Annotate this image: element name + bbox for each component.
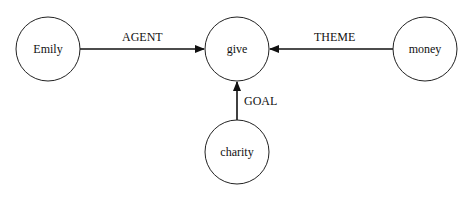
edge-label-agent: AGENT [122, 30, 163, 44]
node-emily: Emily [16, 17, 80, 81]
node-give: give [205, 17, 269, 81]
edge-theme: THEME [270, 30, 393, 49]
node-label-emily: Emily [33, 42, 62, 56]
node-money: money [393, 17, 457, 81]
edge-agent: AGENT [80, 30, 204, 49]
node-charity: charity [205, 120, 269, 184]
edge-label-goal: GOAL [244, 94, 277, 108]
semantic-graph-canvas: AGENT THEME GOAL Emily give money charit… [0, 0, 475, 198]
node-label-money: money [409, 42, 442, 56]
node-label-charity: charity [220, 145, 253, 159]
edge-label-theme: THEME [314, 30, 355, 44]
node-label-give: give [227, 42, 248, 56]
edge-goal: GOAL [237, 82, 277, 120]
